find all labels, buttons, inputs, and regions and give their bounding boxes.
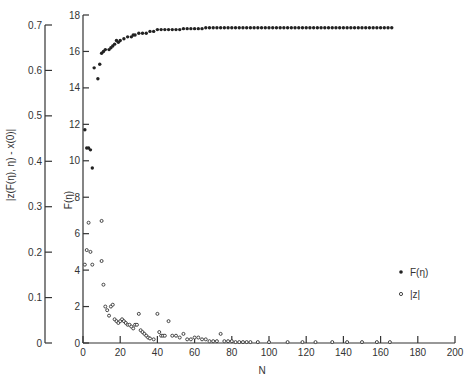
data-point: [171, 334, 174, 337]
data-point: [208, 340, 211, 343]
legend-label: |z|: [410, 289, 420, 300]
data-point: [301, 341, 304, 344]
data-point: [371, 26, 374, 29]
data-point: [390, 26, 393, 29]
data-point: [286, 341, 289, 344]
data-series: [83, 26, 393, 344]
data-point: [375, 341, 378, 344]
data-point: [316, 26, 319, 29]
legend-marker-open-circle-icon: [399, 292, 402, 295]
data-point: [383, 26, 386, 29]
data-point: [357, 26, 360, 29]
data-point: [145, 32, 148, 35]
data-point: [331, 341, 334, 344]
data-point: [327, 26, 330, 29]
secondary-y-axis-label: |z(F(η), η) - x(0)|: [5, 129, 16, 201]
data-point: [167, 320, 170, 323]
data-point: [83, 263, 86, 266]
data-point: [361, 341, 364, 344]
data-point: [386, 26, 389, 29]
primary-tick-label: 12: [69, 119, 81, 130]
x-tick-label: 200: [447, 347, 464, 358]
data-point: [234, 341, 237, 344]
data-point: [98, 62, 101, 65]
x-axis: 020406080100120140160180200: [80, 336, 464, 358]
data-point: [219, 26, 222, 29]
secondary-tick-label: 0.7: [28, 20, 42, 31]
data-point: [163, 28, 166, 31]
legend-label: F(η): [410, 267, 428, 278]
data-point: [132, 327, 135, 330]
data-point: [379, 26, 382, 29]
data-point: [96, 77, 99, 80]
data-point: [215, 340, 218, 343]
primary-tick-label: 16: [69, 46, 81, 57]
x-tick-label: 140: [335, 347, 352, 358]
legend-marker-filled-dot-icon: [399, 270, 403, 274]
data-point: [286, 26, 289, 29]
data-point: [189, 338, 192, 341]
data-point: [282, 26, 285, 29]
data-point: [167, 28, 170, 31]
data-point: [159, 28, 162, 31]
data-point: [174, 28, 177, 31]
data-point: [241, 26, 244, 29]
data-point: [104, 48, 107, 51]
data-point: [345, 26, 348, 29]
secondary-tick-label: 0.1: [28, 292, 42, 303]
data-point: [227, 340, 230, 343]
data-point: [241, 341, 244, 344]
data-point: [152, 30, 155, 33]
data-point: [175, 334, 178, 337]
data-point: [148, 337, 151, 340]
data-point: [264, 26, 267, 29]
data-point: [256, 26, 259, 29]
secondary-tick-label: 0.2: [28, 247, 42, 258]
data-point: [156, 312, 159, 315]
data-point: [346, 341, 349, 344]
data-point: [245, 26, 248, 29]
data-point: [290, 26, 293, 29]
data-point: [122, 37, 125, 40]
x-axis-label: N: [258, 365, 265, 376]
data-point: [137, 312, 140, 315]
x-tick-label: 160: [372, 347, 389, 358]
data-point: [314, 341, 317, 344]
series-abs-z: [83, 219, 391, 343]
data-point: [89, 148, 92, 151]
data-point: [197, 336, 200, 339]
data-point: [226, 26, 229, 29]
data-point: [182, 332, 185, 335]
data-point: [193, 336, 196, 339]
data-point: [312, 26, 315, 29]
primary-y-axis: 024681012141618: [69, 10, 89, 349]
data-point: [119, 39, 122, 42]
data-point: [275, 26, 278, 29]
data-point: [178, 28, 181, 31]
data-point: [158, 331, 161, 334]
data-point: [297, 26, 300, 29]
data-point: [249, 26, 252, 29]
data-point: [223, 26, 226, 29]
data-point: [148, 30, 151, 33]
x-tick-label: 20: [115, 347, 127, 358]
data-point: [278, 26, 281, 29]
primary-tick-label: 10: [69, 155, 81, 166]
data-point: [137, 32, 140, 35]
secondary-tick-label: 0.3: [28, 201, 42, 212]
data-point: [323, 26, 326, 29]
data-point: [100, 219, 103, 222]
secondary-tick-label: 0.4: [28, 156, 42, 167]
data-point: [230, 340, 233, 343]
data-point: [91, 263, 94, 266]
data-point: [102, 283, 105, 286]
data-point: [92, 66, 95, 69]
data-point: [204, 338, 207, 341]
data-point: [186, 338, 189, 341]
x-tick-label: 120: [298, 347, 315, 358]
data-point: [230, 26, 233, 29]
y-axis-label: F(η): [63, 191, 74, 209]
data-point: [100, 260, 103, 263]
data-point: [200, 27, 203, 30]
data-point: [197, 27, 200, 30]
